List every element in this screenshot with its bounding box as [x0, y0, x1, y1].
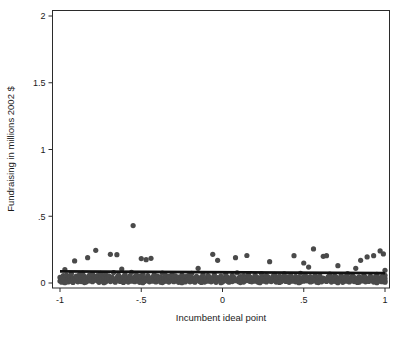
y-tick-label: .5	[38, 212, 46, 222]
data-point	[108, 252, 113, 257]
data-point	[62, 280, 67, 285]
data-point	[291, 253, 296, 258]
regression-line	[60, 271, 385, 273]
data-point	[301, 260, 306, 265]
data-point	[371, 253, 376, 258]
data-point	[365, 254, 370, 259]
data-point	[72, 258, 77, 263]
figure-background	[0, 0, 406, 338]
data-point	[139, 256, 144, 261]
data-point	[355, 280, 360, 285]
x-tick-label: -.5	[136, 295, 147, 305]
y-axis-title: Fundraising in millions 2002 $	[5, 85, 16, 211]
data-point	[306, 265, 311, 270]
data-point	[296, 280, 301, 285]
data-point	[85, 255, 90, 260]
data-point	[257, 280, 262, 285]
regression-line-layer	[60, 271, 385, 273]
x-tick-label: 0	[220, 295, 225, 305]
data-point	[335, 263, 340, 268]
data-point	[374, 280, 379, 285]
data-point	[82, 280, 87, 285]
data-point	[148, 256, 153, 261]
scatter-plot-figure: 0.511.52 -1-.50.51 Incumbent ideal point…	[0, 0, 406, 338]
y-tick-label: 1.5	[33, 78, 46, 88]
data-point	[244, 253, 249, 258]
data-point	[93, 248, 98, 253]
data-point	[114, 252, 119, 257]
data-point	[324, 253, 329, 258]
x-tick-label: -1	[56, 295, 64, 305]
data-point	[267, 259, 272, 264]
data-point	[101, 280, 106, 285]
data-point	[353, 266, 358, 271]
data-point	[335, 280, 340, 285]
data-point	[311, 246, 316, 251]
data-point	[233, 255, 238, 260]
x-tick-label: .5	[300, 295, 308, 305]
x-axis-title: Incumbent ideal point	[176, 312, 267, 323]
data-point	[131, 223, 136, 228]
data-point	[199, 280, 204, 285]
data-point	[210, 252, 215, 257]
data-point	[316, 280, 321, 285]
data-point	[196, 266, 201, 271]
x-tick-label: 1	[382, 295, 387, 305]
data-point	[215, 258, 220, 263]
data-point	[144, 257, 149, 262]
data-point	[179, 280, 184, 285]
data-point	[238, 280, 243, 285]
y-tick-label: 0	[40, 278, 45, 288]
data-point	[277, 280, 282, 285]
data-point	[358, 258, 363, 263]
data-point	[160, 280, 165, 285]
y-tick-label: 1	[40, 145, 45, 155]
y-tick-label: 2	[40, 11, 45, 21]
data-point	[121, 280, 126, 285]
data-point	[379, 277, 384, 282]
data-point	[381, 251, 386, 256]
data-point	[218, 280, 223, 285]
data-point	[140, 280, 145, 285]
